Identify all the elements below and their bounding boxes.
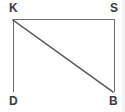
geometry-diagram: K S D B: [0, 0, 125, 112]
vertex-label-d: D: [9, 95, 18, 107]
vertex-label-s: S: [110, 2, 118, 14]
geometry-canvas: [0, 0, 125, 112]
vertex-label-b: B: [109, 95, 118, 107]
vertex-label-k: K: [9, 2, 18, 14]
segment-kb-diagonal: [13, 20, 113, 92]
right-edge-margin: [122, 0, 125, 112]
